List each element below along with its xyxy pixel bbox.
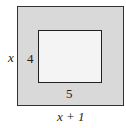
inner-width-label: 5 [66,87,73,100]
outer-width-label: x + 1 [57,110,85,123]
inner-rectangle [38,30,102,83]
inner-height-label: 4 [27,52,34,65]
outer-height-label: x [8,51,14,64]
